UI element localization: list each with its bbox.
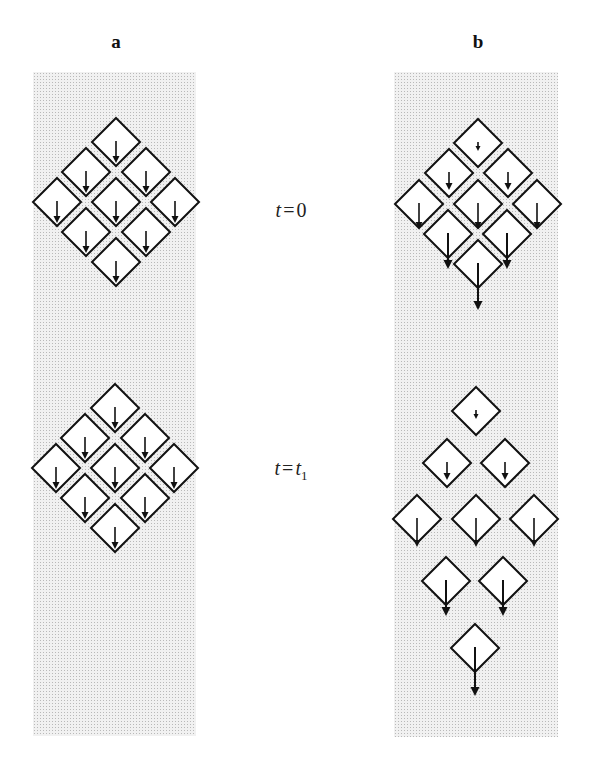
lattice-cell — [92, 178, 140, 226]
lattice-cell — [484, 149, 532, 197]
panel-a-t1 — [32, 384, 198, 552]
lattice-cell — [510, 495, 558, 547]
lattice-cell — [452, 495, 500, 547]
diamond-lattice-figure — [0, 0, 589, 764]
lattice-cell — [451, 624, 499, 696]
lattice-cell — [91, 504, 139, 552]
lattice-cell — [479, 557, 527, 616]
lattice-cell — [92, 238, 140, 286]
panel-b-t1 — [393, 387, 558, 696]
panel-b-t0 — [395, 119, 561, 310]
lattice-cell — [452, 387, 500, 435]
lattice-cell — [423, 439, 471, 487]
lattice-cell — [513, 180, 561, 229]
lattice-cell — [91, 384, 139, 432]
lattice-cell — [481, 439, 529, 487]
lattice-cell — [393, 495, 441, 547]
lattice-cell — [454, 240, 502, 310]
lattice-cell — [92, 118, 140, 166]
lattice-cell — [91, 444, 139, 492]
lattice-cell — [422, 557, 470, 616]
panel-a-t0 — [33, 118, 199, 286]
